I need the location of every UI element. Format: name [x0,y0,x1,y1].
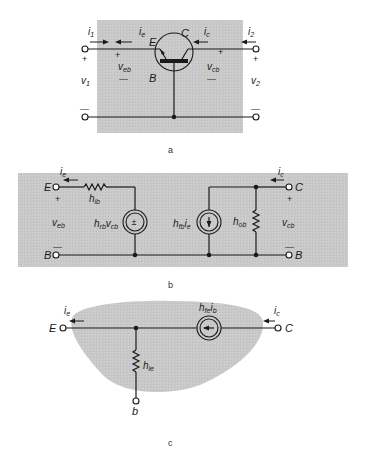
figure-a-label-i2: i2 [248,26,254,38]
figure-b-base-terminal-right [286,252,292,258]
figure-a-label-collector: C [181,27,189,39]
figure-b-label-base-right: B [295,249,302,261]
figure-a-veb-plus: + [115,50,120,60]
figure-b-veb-minus: — [53,242,62,252]
figure-b-node [133,253,138,258]
figure-b-node [207,253,212,258]
figure-a-label-v2: v2 [251,75,260,87]
figure-a-output-terminal-top [253,46,259,52]
figure-a-base-node [172,115,177,120]
figure-c-label-ic: ic [274,305,280,317]
figure-b-veb-plus: + [55,194,60,204]
figure-a-v2-minus: — [251,104,260,114]
figure-b-label-ic: ic [278,166,284,178]
figure-b-vcb-minus: — [285,242,294,252]
figure-a-label-v1: v1 [81,75,90,87]
figure-b-label-base-left: B [44,249,51,261]
figure-c-label-emitter: E [49,322,57,334]
figure-b-caption: b [168,280,173,290]
figure-b-label-emitter: E [44,181,52,193]
svg-text:±: ± [132,217,137,227]
figure-a-label-i1: i1 [88,26,94,38]
figure-a-output-terminal-bottom [253,114,259,120]
figure-c-shaded-blob [71,301,263,392]
figure-a-v2-plus: + [253,54,258,64]
figure-b-node [254,253,259,258]
circuit-diagram: i1 ie ic i2 E C B + veb — + vcb — + v1 —… [0,0,366,457]
figure-a-i2-arrow-icon [241,40,256,45]
figure-a-caption: a [168,145,173,155]
figure-c-caption: c [168,438,173,448]
figure-a-v1-minus: — [80,104,89,114]
figure-a-vcb-plus: + [218,47,223,57]
figure-a-v1-plus: + [82,54,87,64]
figure-c-label-collector: C [285,322,293,334]
figure-c-collector-terminal [275,325,281,331]
figure-c-emitter-terminal [60,325,66,331]
figure-c-simplified-model: ie ic E C b hie hfeib c [49,301,293,448]
figure-a-input-terminal-bottom [82,114,88,120]
figure-c-ic-arrow-icon [263,319,275,324]
figure-c-label-base: b [132,405,138,417]
figure-a-veb-minus: — [119,74,128,84]
figure-a-vcb-minus: — [207,74,216,84]
figure-b-base-terminal-left [53,252,59,258]
figure-b-label-collector: C [295,181,303,193]
figure-b-node [254,185,259,190]
figure-b-emitter-terminal [53,184,59,190]
figure-b-collector-terminal [286,184,292,190]
figure-a-label-emitter: E [149,36,157,48]
figure-a-label-base: B [149,72,156,84]
figure-a-common-base-transistor: i1 ie ic i2 E C B + veb — + vcb — + v1 —… [80,20,260,155]
figure-c-base-terminal [133,398,139,404]
figure-b-label-ie: ie [60,166,66,178]
figure-c-label-ie: ie [64,305,70,317]
figure-b-h-parameter-equivalent: ± [18,166,348,290]
figure-a-input-terminal-top [82,46,88,52]
figure-b-vcb-plus: + [287,194,292,204]
